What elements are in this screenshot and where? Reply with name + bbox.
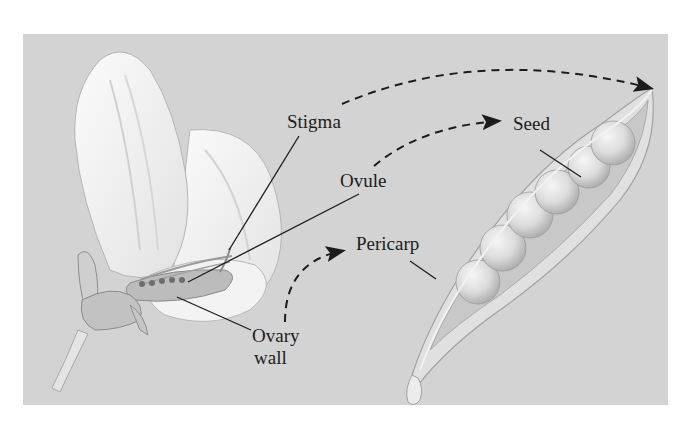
label-ovule: Ovule	[340, 171, 386, 191]
diagram-illustration	[0, 0, 687, 428]
pea-pod-illustration	[407, 88, 654, 405]
arrow-ovary-wall-to-pericarp	[285, 251, 342, 322]
label-stigma: Stigma	[287, 112, 341, 132]
pericarp-leader	[410, 261, 436, 279]
arrow-stigma-to-pod	[342, 70, 650, 104]
arrow-ovule-to-seed	[374, 121, 498, 166]
label-seed: Seed	[513, 114, 550, 134]
label-ovary-wall-line2: wall	[254, 348, 287, 368]
label-pericarp: Pericarp	[356, 234, 419, 254]
flower-illustration	[52, 52, 281, 392]
label-ovary-wall-line1: Ovary	[252, 326, 299, 346]
